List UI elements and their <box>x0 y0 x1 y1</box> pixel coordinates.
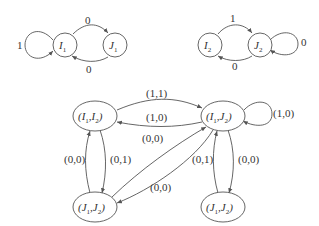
edge-label-i1i2-j1j2left: (0,1) <box>110 153 131 166</box>
edge-label-j1j2right-i1j2: (0,1) <box>192 153 213 166</box>
edge-label-j1-i1: 0 <box>86 63 92 75</box>
edge-i1-self-loop <box>25 32 53 59</box>
edge-label-i1-self: 1 <box>17 39 23 51</box>
edge-i1i2-to-j1j2left <box>100 130 106 193</box>
diagram-svg: 1 0 0 I1 J1 1 0 0 I2 J2 (1,1) (1,0) (1,0… <box>0 0 319 226</box>
automaton-2: 1 0 0 I2 J2 <box>198 12 307 72</box>
edge-label-i1i2-i1j2: (1,1) <box>146 87 167 100</box>
edge-j1-to-i1 <box>72 56 108 61</box>
edge-i1-to-j1 <box>73 25 108 34</box>
edge-label-j2-i2: 0 <box>232 60 238 72</box>
edge-label-i1j2-self: (1,0) <box>273 107 294 120</box>
edge-i2-to-j2 <box>218 25 252 34</box>
product-automaton: (1,1) (1,0) (1,0) (0,0) (0,0) (0,0) (0,1… <box>64 87 294 222</box>
edge-label-j1j2left-i1i2: (0,0) <box>64 153 85 166</box>
edge-j1j2right-to-i1j2 <box>213 131 218 193</box>
edge-j2-self-loop <box>270 33 298 55</box>
automaton-1: 1 0 0 I1 J1 <box>17 14 127 75</box>
edge-i1j2-to-j1j2right <box>228 130 233 193</box>
edge-label-j1j2left-i1j2: (0,0) <box>142 132 163 145</box>
edge-j1j2left-to-i1i2 <box>86 131 91 193</box>
edge-label-i1j2-j1j2left: (0,0) <box>150 181 171 194</box>
edge-i1j2-self-loop <box>243 102 272 125</box>
edge-label-j2-self: 0 <box>301 36 307 48</box>
edge-label-i1j2-i1i2: (1,0) <box>146 111 167 124</box>
edge-label-i1-j1: 0 <box>85 14 91 26</box>
state-diagram: 1 0 0 I1 J1 1 0 0 I2 J2 (1,1) (1,0) (1,0… <box>0 0 319 226</box>
edge-i1i2-to-i1j2 <box>117 99 202 110</box>
edge-label-i1j2-j1j2right: (0,0) <box>238 153 259 166</box>
edge-label-i2-j2: 1 <box>230 12 236 24</box>
